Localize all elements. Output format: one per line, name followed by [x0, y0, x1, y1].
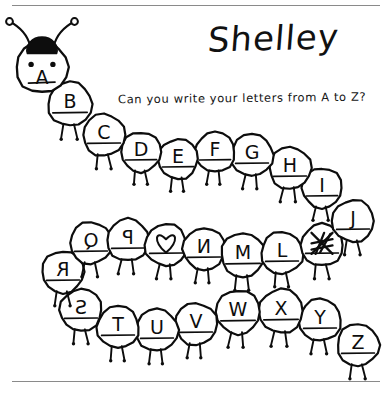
- top-divider-line: [12, 5, 380, 6]
- svg-text:T: T: [111, 313, 124, 335]
- caterpillar-segment-e: E: [158, 139, 198, 193]
- caterpillar-segment-s: S: [59, 289, 101, 346]
- svg-text:W: W: [229, 298, 248, 320]
- caterpillar-segment-n: N: [182, 228, 224, 284]
- svg-text:C: C: [97, 121, 110, 143]
- svg-text:I: I: [319, 174, 325, 196]
- svg-text:B: B: [63, 90, 76, 112]
- caterpillar-segment-b: B: [49, 81, 93, 141]
- caterpillar-segment-j: J: [332, 200, 374, 256]
- svg-text:M: M: [235, 241, 251, 263]
- svg-text:J: J: [349, 207, 356, 229]
- caterpillar-segment-t: T: [96, 306, 138, 363]
- svg-text:X: X: [274, 297, 287, 319]
- svg-text:U: U: [150, 316, 164, 338]
- svg-text:R: R: [56, 258, 69, 280]
- instruction-text: Can you write your letters from A to Z?: [118, 90, 366, 107]
- svg-text:L: L: [277, 239, 288, 261]
- svg-text:E: E: [172, 145, 184, 167]
- caterpillar-segment-m: M: [222, 233, 266, 292]
- worksheet-page: Shelley Can you write your letters from …: [0, 0, 390, 400]
- caterpillar-segment-k: [301, 223, 343, 281]
- svg-text:F: F: [210, 138, 221, 160]
- svg-text:G: G: [245, 141, 260, 163]
- caterpillar-segment-c: C: [83, 113, 125, 170]
- caterpillar-segment-p: P: [107, 218, 149, 276]
- caterpillar-segment-z: Z: [338, 324, 380, 380]
- caterpillar-segment-i: I: [301, 169, 341, 222]
- caterpillar-segment-g: G: [232, 134, 274, 191]
- svg-text:H: H: [283, 154, 297, 176]
- svg-text:P: P: [122, 226, 133, 248]
- svg-text:Z: Z: [351, 331, 364, 353]
- caterpillar-segment-q: Q: [70, 222, 112, 278]
- caterpillar-segment-r: R: [43, 252, 85, 307]
- caterpillar-segment-x: X: [259, 288, 303, 348]
- caterpillar-segment-w: W: [216, 291, 260, 349]
- page-title: Shelley: [206, 16, 340, 59]
- caterpillar-head: A: [6, 18, 78, 92]
- svg-text:S: S: [75, 296, 87, 318]
- caterpillar-segment-f: F: [194, 131, 234, 185]
- head-letter: A: [36, 66, 49, 88]
- bottom-divider-line: [12, 381, 380, 382]
- caterpillar-segment-h: H: [270, 147, 312, 204]
- svg-text:Y: Y: [313, 306, 326, 328]
- svg-text:D: D: [134, 138, 149, 160]
- caterpillar-segment-y: Y: [299, 298, 341, 355]
- caterpillar-segment-u: U: [137, 308, 179, 365]
- caterpillar-segment-l: L: [262, 232, 304, 288]
- svg-text:V: V: [190, 310, 203, 332]
- caterpillar-segment-d: D: [121, 133, 161, 186]
- caterpillar-drawing: ZYXWVUTSRQPNMLJIHGFEDCBA: [0, 0, 390, 400]
- caterpillar-segment-o: [145, 224, 187, 280]
- caterpillar-svg: ZYXWVUTSRQPNMLJIHGFEDCBA: [0, 0, 390, 400]
- svg-text:N: N: [197, 235, 211, 257]
- svg-text:Q: Q: [84, 229, 99, 251]
- caterpillar-segment-v: V: [175, 303, 217, 359]
